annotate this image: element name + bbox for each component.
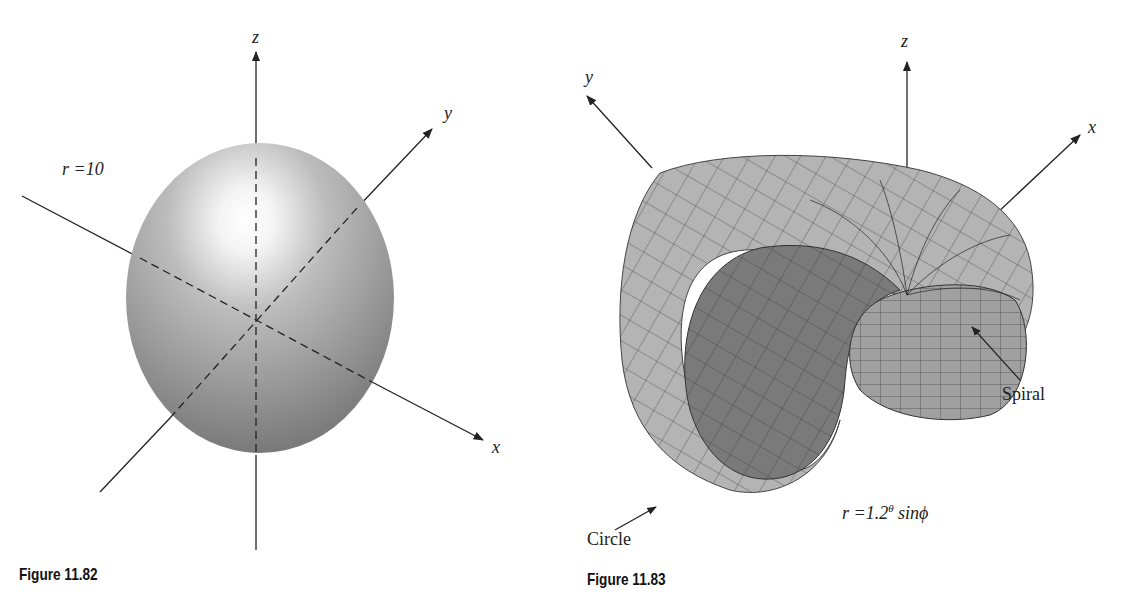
sphere-surface: [126, 143, 394, 453]
circle-annotation: Circle: [587, 530, 631, 548]
figure-spiral: z y x Spiral Circle r =1.2θ sinϕ Figure …: [560, 0, 1124, 599]
x-axis-label: x: [492, 438, 500, 456]
y-axis-positive: [357, 129, 432, 208]
circle-pointer: [615, 507, 656, 530]
y-axis-label: y: [444, 104, 452, 122]
x-axis-negative: [22, 196, 140, 258]
y-axis-negative: [100, 418, 170, 492]
x-axis-positive: [372, 382, 483, 440]
equation-label: r =10: [62, 160, 104, 178]
y-axis-label: y: [585, 68, 593, 86]
x-axis-label: x: [1088, 118, 1096, 136]
x-axis: [995, 135, 1080, 215]
z-axis-label: z: [901, 32, 908, 50]
z-axis-label: z: [252, 28, 259, 46]
spiral-annotation: Spiral: [1002, 385, 1045, 403]
figure-caption: Figure 11.83: [587, 570, 666, 590]
figure-sphere: z y x r =10 Figure 11.82: [0, 0, 560, 599]
equation-label: r =1.2θ sinϕ: [842, 503, 928, 522]
sphere-plot: [0, 0, 560, 599]
figure-caption: Figure 11.82: [19, 565, 98, 585]
y-axis: [587, 96, 652, 168]
